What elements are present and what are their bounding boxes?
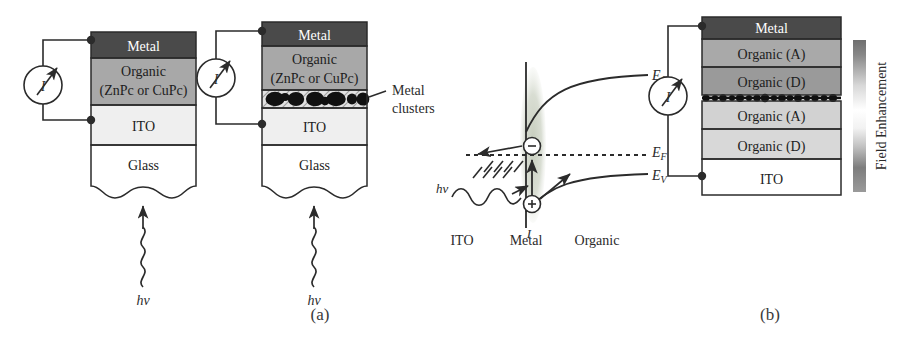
contact-node-bottom-1 [87, 116, 95, 124]
layer-label-organic-1b: (ZnPc or CuPc) [100, 83, 188, 99]
contact-node-top-b [698, 22, 706, 30]
layer-label-organic-a-2: Organic (A) [738, 109, 806, 125]
electron-injection-arrow [478, 146, 522, 154]
device-tandem-donor-acceptor-photodetector: I Metal Organic (A) Organic (D) Organic … [649, 17, 841, 195]
layer-label-metal-b: Metal [755, 21, 788, 36]
illumination-arrow-2 [312, 206, 316, 287]
figure-root: I Metal Organic (ZnPc or CuPc) ITO Glass… [0, 0, 921, 345]
fermi-level-label: EF [651, 145, 668, 162]
layer-label-metal-1: Metal [127, 39, 160, 54]
panel-label-b: (b) [760, 305, 780, 324]
layer-label-organic-d-2: Organic (D) [738, 139, 806, 155]
layer-label-organic-1a: Organic [121, 64, 166, 79]
incident-photon-wave [452, 189, 521, 206]
field-enhancement-label: Field Enhancement [874, 62, 889, 171]
field-enhancement-colorbar: Field Enhancement [853, 40, 889, 192]
illumination-arrow-1 [141, 206, 145, 287]
contact-node-bottom-2 [258, 120, 266, 128]
band-photon-label: hv [436, 181, 449, 196]
illumination-label-1: hv [136, 293, 150, 308]
panel-label-a: (a) [311, 305, 330, 324]
contact-node-bottom-b [698, 172, 706, 180]
metal-clusters-label-line1: Metal [392, 83, 425, 98]
layer-label-ito-1: ITO [132, 119, 155, 134]
energy-band-diagram: EC EF EV hv I ITO [436, 62, 669, 248]
layer-label-ito-2: ITO [303, 120, 326, 135]
layer-label-organic-2a: Organic [292, 52, 337, 67]
layer-label-glass-1: Glass [128, 158, 159, 173]
hot-carrier-hatch-arrows [473, 161, 523, 178]
metal-clusters-leader-line [369, 91, 386, 97]
contact-node-top-1 [87, 36, 95, 44]
metal-clusters-label-line2: clusters [392, 101, 435, 116]
contact-node-top-2 [258, 27, 266, 35]
layer-label-organic-d-1: Organic (D) [738, 75, 806, 91]
band-region-organic-label: Organic [575, 233, 620, 248]
layer-label-organic-a-1: Organic (A) [738, 47, 806, 63]
fermi-level-subscript: F [660, 151, 668, 162]
field-enhancement-gradient [853, 40, 866, 192]
band-region-metal-label: Metal [510, 233, 543, 248]
layer-label-metal-2: Metal [298, 28, 331, 43]
layer-label-glass-2: Glass [299, 158, 330, 173]
device-metal-cluster-organic-photodetector: I Metal Organic (ZnPc or CuPc) ITO Glass… [197, 22, 435, 308]
layer-label-organic-2b: (ZnPc or CuPc) [271, 71, 359, 87]
layer-label-ito-b: ITO [760, 172, 783, 187]
band-region-ito-label: ITO [450, 233, 473, 248]
device-plain-organic-photodetector: I Metal Organic (ZnPc or CuPc) ITO Glass… [24, 32, 196, 308]
valence-band-label: EV [651, 168, 669, 185]
